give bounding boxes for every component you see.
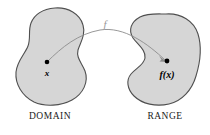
domain-caption: DOMAIN [29, 112, 71, 122]
range-point-dot [165, 59, 170, 64]
domain-element-label: x [45, 69, 50, 78]
domain-blob [16, 8, 86, 105]
function-mapping-figure: f x f(x) DOMAIN RANGE [0, 0, 210, 135]
range-caption: RANGE [147, 112, 182, 122]
domain-point-dot [45, 60, 50, 65]
range-element-label: f(x) [160, 70, 175, 80]
function-curve-label: f [103, 19, 106, 30]
